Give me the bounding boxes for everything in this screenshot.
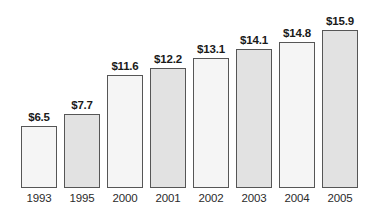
bar-group: $15.9 — [322, 30, 358, 188]
bar-group: $7.7 — [64, 114, 100, 188]
bar-value-label: $11.6 — [111, 60, 138, 72]
plot-area: $6.51993$7.71995$11.62000$12.22001$13.12… — [0, 0, 383, 218]
bar[interactable] — [21, 126, 57, 188]
bar-value-label: $12.2 — [154, 53, 182, 65]
x-axis-label: 2005 — [322, 192, 358, 204]
bar-group: $11.6 — [107, 75, 143, 188]
bar-group: $12.2 — [150, 68, 186, 188]
bar-group: $14.1 — [236, 49, 272, 188]
bar[interactable] — [193, 58, 229, 188]
x-axis-label: 2004 — [279, 192, 315, 204]
bar-chart: $6.51993$7.71995$11.62000$12.22001$13.12… — [0, 0, 383, 218]
bar-value-label: $6.5 — [28, 111, 50, 123]
bar[interactable] — [107, 75, 143, 188]
bar[interactable] — [150, 68, 186, 188]
bar-group: $6.5 — [21, 126, 57, 188]
bar-value-label: $7.7 — [71, 99, 93, 111]
bar-value-label: $15.9 — [326, 15, 354, 27]
x-axis-label: 1995 — [64, 192, 100, 204]
x-axis-label: 1993 — [21, 192, 57, 204]
bar-value-label: $14.8 — [283, 27, 311, 39]
bar[interactable] — [279, 42, 315, 188]
x-axis-label: 2003 — [236, 192, 272, 204]
bar[interactable] — [64, 114, 100, 188]
x-axis-label: 2000 — [107, 192, 143, 204]
bar-group: $14.8 — [279, 42, 315, 188]
x-axis-label: 2002 — [193, 192, 229, 204]
bar[interactable] — [322, 30, 358, 188]
bar-value-label: $13.1 — [197, 43, 225, 55]
bar-value-label: $14.1 — [240, 34, 268, 46]
bar[interactable] — [236, 49, 272, 188]
x-axis-label: 2001 — [150, 192, 186, 204]
bar-group: $13.1 — [193, 58, 229, 188]
